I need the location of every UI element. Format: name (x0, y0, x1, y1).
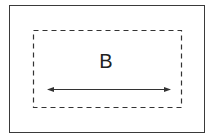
region-label: B (92, 51, 120, 71)
double-arrow-icon (47, 87, 171, 92)
